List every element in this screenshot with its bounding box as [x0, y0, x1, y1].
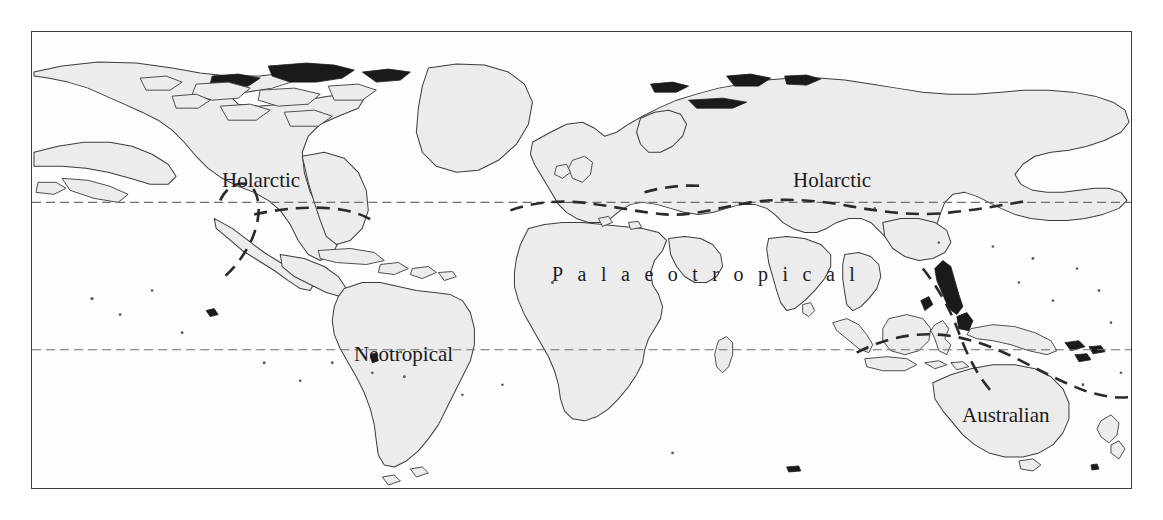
- figure-page: .land { fill:#ececec; stroke:#3c3c3c; st…: [0, 0, 1163, 520]
- map-frame: .land { fill:#ececec; stroke:#3c3c3c; st…: [31, 31, 1132, 489]
- world-map-graphic: .land { fill:#ececec; stroke:#3c3c3c; st…: [32, 32, 1131, 488]
